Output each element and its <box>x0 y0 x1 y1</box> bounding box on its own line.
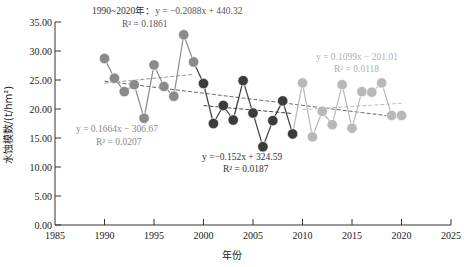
y-tick-label: 0.00 <box>35 220 53 231</box>
data-point-1996 <box>159 81 169 91</box>
data-point-1992 <box>119 86 129 96</box>
data-point-2015 <box>347 123 357 133</box>
series-line-segment <box>293 83 303 134</box>
series-line-segment <box>174 35 184 96</box>
data-point-2003 <box>228 115 238 125</box>
1990s-r2: R² = 0.0207 <box>96 137 142 147</box>
data-point-2020 <box>396 110 406 120</box>
2010s-r2: R² = 0.0118 <box>334 64 379 74</box>
data-point-1990 <box>99 53 109 63</box>
series-line-segment <box>204 83 214 123</box>
trendline-label-2000s: y =−0.152x + 324.59 R² = 0.0187 <box>202 152 282 174</box>
data-point-1998 <box>179 30 189 40</box>
y-tick-label: 5.00 <box>35 191 53 202</box>
data-point-2007 <box>268 115 278 125</box>
x-tick-label: 2015 <box>342 230 362 241</box>
x-ticks: 198519901995200020052010201520202025 <box>45 219 461 241</box>
data-point-2010 <box>297 78 307 88</box>
2010s-equation: y = 0.1099x − 201.01 <box>316 52 398 62</box>
data-point-1999 <box>188 57 198 67</box>
series-line-segment <box>352 92 362 129</box>
1990s-equation: y = 0.1664x − 306.67 <box>76 124 158 134</box>
data-point-2017 <box>367 87 377 97</box>
data-point-2013 <box>327 119 337 129</box>
data-point-2000 <box>198 78 208 88</box>
data-point-1991 <box>109 73 119 83</box>
y-tick-label: 15.00 <box>30 133 53 144</box>
x-tick-label: 2010 <box>293 230 313 241</box>
series-line-segment <box>332 85 342 125</box>
data-point-1994 <box>139 113 149 123</box>
data-point-2004 <box>238 75 248 85</box>
trendline-2010-2020 <box>303 103 402 109</box>
x-tick-label: 1995 <box>144 230 164 241</box>
y-axis-title: 水蚀模数/(t/hm²) <box>2 86 14 165</box>
y-tick-label: 20.00 <box>30 104 53 115</box>
data-point-2002 <box>218 100 228 110</box>
overall-prefix: 1990~2020年： <box>92 5 155 16</box>
series-line-segment <box>144 65 154 118</box>
2000s-r2: R² = 0.0187 <box>223 164 269 174</box>
series-line-segment <box>233 81 243 120</box>
trendline-label-overall: 1990~2020年：y = −0.2088x + 440.32 R² = 0.… <box>92 5 243 29</box>
overall-equation: y = −0.2088x + 440.32 <box>155 6 243 16</box>
trendline-label-2010s: y = 0.1099x − 201.01 R² = 0.0118 <box>316 52 398 74</box>
x-tick-label: 2020 <box>392 230 412 241</box>
x-tick-label: 2025 <box>441 230 461 241</box>
data-point-1993 <box>129 79 139 89</box>
x-tick-label: 2005 <box>243 230 263 241</box>
data-point-2012 <box>317 106 327 116</box>
overall-r2: R² = 0.1861 <box>122 19 168 29</box>
data-point-2018 <box>377 78 387 88</box>
y-tick-label: 35.00 <box>30 17 53 28</box>
x-tick-label: 1985 <box>45 230 65 241</box>
data-point-2001 <box>208 118 218 128</box>
y-tick-label: 25.00 <box>30 75 53 86</box>
data-point-2005 <box>248 108 258 118</box>
y-ticks: 0.005.0010.0015.0020.0025.0030.0035.00 <box>30 17 62 231</box>
data-point-2006 <box>258 142 268 152</box>
data-point-2014 <box>337 79 347 89</box>
data-point-2009 <box>287 129 297 139</box>
x-axis-title: 年份 <box>222 249 242 261</box>
y-tick-label: 10.00 <box>30 162 53 173</box>
x-tick-label: 2000 <box>194 230 214 241</box>
2000s-equation: y =−0.152x + 324.59 <box>202 152 282 162</box>
data-point-2016 <box>357 86 367 96</box>
y-tick-label: 30.00 <box>30 46 53 57</box>
data-point-2011 <box>307 132 317 142</box>
data-point-2008 <box>278 96 288 106</box>
data-point-2019 <box>386 110 396 120</box>
svg-text:1990~2020年：y = −0.2088x + 440.: 1990~2020年：y = −0.2088x + 440.32 <box>92 5 243 16</box>
erosion-modulus-chart: 0.005.0010.0015.0020.0025.0030.0035.00 1… <box>0 0 464 267</box>
x-tick-label: 1990 <box>95 230 115 241</box>
data-point-1995 <box>149 60 159 70</box>
trendline-label-1990s: y = 0.1664x − 306.67 R² = 0.0207 <box>76 124 158 147</box>
data-point-1997 <box>169 91 179 101</box>
